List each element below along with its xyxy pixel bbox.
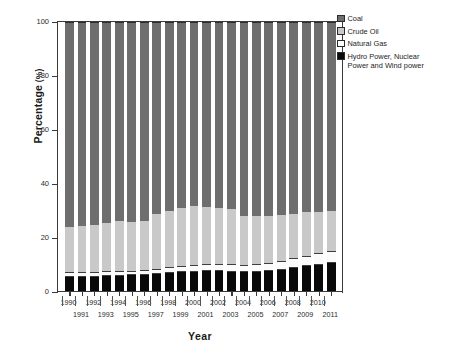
y-axis-title-main: Percentage [32, 85, 44, 144]
bar-2000 [190, 22, 199, 291]
bar-segment [115, 276, 124, 291]
bar-segment [252, 272, 261, 291]
x-axis-tick [107, 291, 108, 296]
x-axis-tick-label: 2000 [180, 298, 206, 307]
plot-area: 020406080100 [57, 22, 343, 292]
bar-segment [264, 216, 273, 263]
bar-2006 [264, 22, 273, 291]
x-axis-tick-label: 2002 [205, 298, 231, 307]
bar-1997 [152, 22, 161, 291]
bar-segment [127, 275, 136, 291]
bar-segment [102, 276, 111, 291]
bar-segment [289, 258, 298, 268]
x-axis-tick [319, 291, 320, 296]
x-label-separator [75, 296, 76, 306]
x-label-separator [62, 296, 63, 306]
bar-2008 [289, 22, 298, 291]
x-axis-tick [306, 291, 307, 296]
legend-swatch-icon [337, 40, 345, 48]
bar-segment [215, 208, 224, 265]
bar-segment [78, 22, 87, 226]
bar-segment [314, 253, 323, 265]
bar-segment [115, 221, 124, 270]
bar-segment [127, 222, 136, 270]
bar-segment [190, 22, 199, 206]
x-label-separator [162, 296, 163, 306]
x-axis-tick [207, 291, 208, 296]
x-axis-tick [182, 291, 183, 296]
x-axis-title: Year [120, 330, 280, 342]
x-label-separator [212, 296, 213, 306]
x-label-separator [175, 296, 176, 306]
bar-1996 [140, 22, 149, 291]
bar-segment [289, 268, 298, 291]
x-label-separator [286, 296, 287, 306]
x-label-separator [324, 296, 325, 306]
bar-segment [152, 274, 161, 291]
bar-segment [327, 211, 336, 251]
x-axis-tick-label: 2009 [292, 310, 318, 319]
x-axis-tick [157, 291, 158, 296]
x-label-separator [311, 296, 312, 306]
bar-2010 [314, 22, 323, 291]
bar-segment [314, 212, 323, 253]
bar-segment [165, 22, 174, 211]
bar-2002 [215, 22, 224, 291]
bar-segment [65, 22, 74, 227]
x-label-separator [200, 296, 201, 306]
x-axis-tick [69, 291, 70, 296]
bar-segment [140, 22, 149, 221]
x-label-separator [274, 296, 275, 306]
bar-segment [327, 22, 336, 211]
bar-segment [302, 256, 311, 267]
legend-item[interactable]: Hydro Power, Nuclear Power and Wind powe… [337, 52, 457, 71]
bar-2003 [227, 22, 236, 291]
x-axis-tick [119, 291, 120, 296]
bar-segment [240, 216, 249, 265]
x-axis-tick-label: 2001 [193, 310, 219, 319]
x-axis-tick [219, 291, 220, 296]
bar-segment [177, 208, 186, 266]
bar-2009 [302, 22, 311, 291]
bar-segment [289, 214, 298, 258]
y-axis-tick-label: 0 [45, 287, 49, 296]
x-label-separator [299, 296, 300, 306]
x-axis-tick-label: 1992 [80, 298, 106, 307]
bar-group [58, 22, 343, 291]
x-axis-tick-label: 1991 [68, 310, 94, 319]
x-label-separator [150, 296, 151, 306]
bar-segment [227, 272, 236, 291]
bar-2005 [252, 22, 261, 291]
bar-segment [264, 271, 273, 291]
x-axis-tick [194, 291, 195, 296]
bar-segment [240, 265, 249, 272]
x-label-separator [224, 296, 225, 306]
bar-segment [227, 209, 236, 264]
y-axis-tick-label: 100 [36, 17, 49, 26]
bar-1994 [115, 22, 124, 291]
legend-label: Crude Oil [348, 27, 379, 36]
legend-item[interactable]: Coal [337, 14, 457, 23]
legend-item[interactable]: Natural Gas [337, 39, 457, 48]
x-label-separator [249, 296, 250, 306]
x-axis-tick [256, 291, 257, 296]
bar-segment [227, 264, 236, 272]
bar-segment [102, 22, 111, 223]
bar-segment [277, 215, 286, 261]
bar-segment [252, 216, 261, 265]
x-axis-tick-label: 1994 [105, 298, 131, 307]
x-axis-tick [244, 291, 245, 296]
bar-segment [252, 264, 261, 272]
bar-segment [277, 261, 286, 270]
bar-1992 [90, 22, 99, 291]
x-label-separator [100, 296, 101, 306]
legend-swatch-icon [337, 15, 345, 23]
x-axis-tick [82, 291, 83, 296]
x-axis-tick [294, 291, 295, 296]
bar-segment [302, 22, 311, 212]
x-axis-tick-label: 2011 [317, 310, 343, 319]
y-axis-tick-label: 40 [41, 179, 49, 188]
bar-segment [127, 22, 136, 222]
legend-item[interactable]: Crude Oil [337, 27, 457, 36]
x-axis-tick [281, 291, 282, 296]
